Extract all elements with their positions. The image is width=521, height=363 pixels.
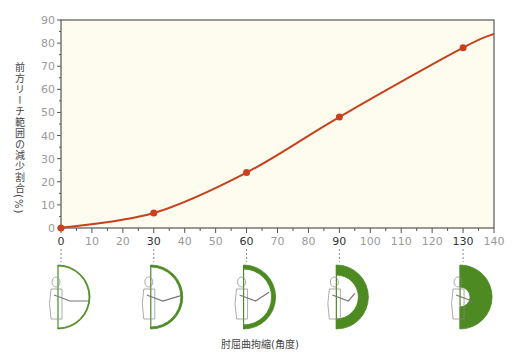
x-tick-label: 110: [391, 235, 412, 248]
y-tick-label: 60: [41, 83, 55, 96]
y-tick-label: 50: [41, 106, 55, 119]
reach-illustration: [235, 265, 275, 329]
data-point: [243, 169, 250, 176]
x-tick-label: 50: [209, 235, 223, 248]
y-tick-label: 10: [41, 199, 55, 212]
y-tick-label: 70: [41, 60, 55, 73]
y-tick-label: 30: [41, 153, 55, 166]
y-tick-label: 20: [41, 176, 55, 189]
y-axis: 0102030405060708090: [41, 14, 61, 235]
chart: 0102030405060708090 01020304050607080901…: [0, 0, 521, 363]
y-axis-title: 前方リーチ範囲の減少割合(%): [12, 62, 26, 214]
x-tick-label: 20: [116, 235, 130, 248]
data-point: [58, 225, 65, 232]
x-tick-label: 120: [422, 235, 443, 248]
x-axis-title: 肘屈曲拘縮(角度): [200, 336, 320, 351]
data-point: [150, 209, 157, 216]
data-point: [336, 114, 343, 121]
x-axis: 0102030405060708090100110120130140: [58, 228, 505, 262]
x-tick-label: 80: [301, 235, 315, 248]
x-tick-label: 60: [240, 235, 254, 248]
reach-illustration: [142, 265, 183, 329]
x-tick-label: 70: [271, 235, 285, 248]
reach-illustration: [50, 265, 91, 329]
plot-area: [61, 20, 494, 228]
x-tick-label: 0: [58, 235, 65, 248]
x-tick-label: 130: [453, 235, 474, 248]
x-tick-label: 90: [332, 235, 346, 248]
y-tick-label: 40: [41, 130, 55, 143]
reach-illustration: [328, 265, 369, 329]
x-tick-label: 100: [360, 235, 381, 248]
y-tick-label: 90: [41, 14, 55, 27]
x-tick-label: 40: [178, 235, 192, 248]
y-tick-label: 0: [48, 222, 55, 235]
reach-illustration: [452, 265, 493, 329]
data-point: [460, 44, 467, 51]
x-tick-label: 10: [85, 235, 99, 248]
x-tick-label: 140: [484, 235, 505, 248]
x-tick-label: 30: [147, 235, 161, 248]
y-tick-label: 80: [41, 37, 55, 50]
reach-illustrations: [50, 265, 493, 329]
